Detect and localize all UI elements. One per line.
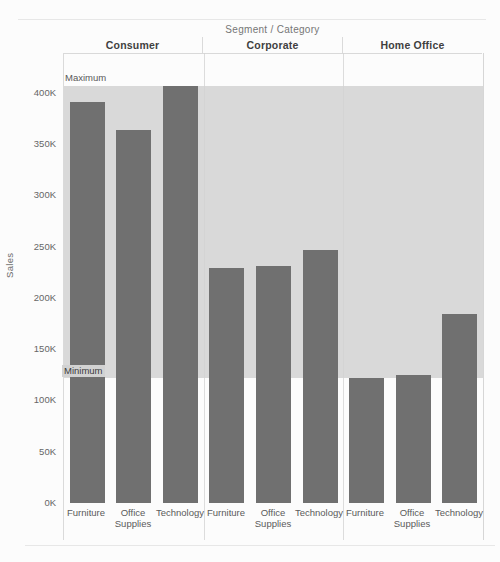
bar-home-office-technology[interactable] [442,314,477,503]
y-tick-350K: 350K [16,139,56,149]
top-divider [18,19,486,20]
category-label-corporate-technology[interactable]: Technology [293,507,345,518]
category-label-home-office-office-supplies[interactable]: Office Supplies [386,507,438,529]
bar-home-office-office-supplies[interactable] [396,375,431,503]
bottom-divider [25,545,495,546]
category-label-consumer-technology[interactable]: Technology [154,507,206,518]
panel-divider [343,53,344,540]
panel-divider [204,53,205,540]
worksheet: Segment / Category Consumer Corporate Ho… [0,0,500,562]
y-tick-250K: 250K [16,242,56,252]
minimum-reference-label: Minimum [62,365,105,377]
maximum-reference-label: Maximum [65,72,106,83]
bar-consumer-office-supplies[interactable] [116,130,151,503]
y-tick-400K: 400K [16,88,56,98]
bar-home-office-furniture[interactable] [349,378,384,503]
segment-header-consumer[interactable]: Consumer [63,37,202,53]
category-label-corporate-furniture[interactable]: Furniture [200,507,252,518]
y-tick-200K: 200K [16,293,56,303]
bar-corporate-furniture[interactable] [209,268,244,503]
segment-header-row: Consumer Corporate Home Office [63,37,482,54]
category-label-consumer-furniture[interactable]: Furniture [60,507,112,518]
y-tick-150K: 150K [16,344,56,354]
bar-consumer-technology[interactable] [163,86,198,503]
y-tick-100K: 100K [16,395,56,405]
y-axis-title: Sales [4,253,15,278]
plot-area [63,53,484,540]
bar-corporate-office-supplies[interactable] [256,266,291,503]
y-tick-0K: 0K [16,498,56,508]
y-tick-50K: 50K [16,447,56,457]
segment-header-home-office[interactable]: Home Office [342,37,482,53]
y-tick-300K: 300K [16,190,56,200]
chart-title: Segment / Category [63,24,482,35]
bar-corporate-technology[interactable] [303,250,338,503]
segment-header-corporate[interactable]: Corporate [202,37,342,53]
category-label-corporate-office-supplies[interactable]: Office Supplies [247,507,299,529]
bar-consumer-furniture[interactable] [70,102,105,503]
category-label-home-office-furniture[interactable]: Furniture [339,507,391,518]
category-label-home-office-technology[interactable]: Technology [433,507,485,518]
category-label-consumer-office-supplies[interactable]: Office Supplies [107,507,159,529]
